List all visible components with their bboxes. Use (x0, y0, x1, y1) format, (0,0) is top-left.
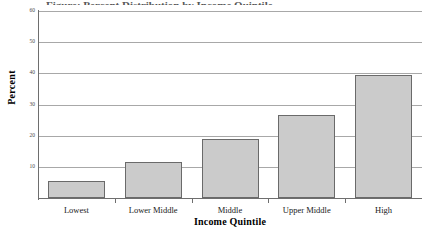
y-tick-label: 10 (17, 164, 35, 170)
y-tick-label: 50 (17, 39, 35, 45)
bar-series (38, 11, 422, 198)
y-tick-label: 60 (17, 8, 35, 14)
y-axis-label: Percent (6, 53, 17, 123)
x-tick-label: Middle (192, 205, 269, 215)
x-tick-label: High (345, 205, 422, 215)
x-tick-mark (192, 198, 193, 203)
x-tick-mark (345, 198, 346, 203)
bar (125, 162, 182, 198)
chart-title-clipped: Figure: Percent Distribution by Income Q… (0, 0, 422, 5)
y-tick-label: 40 (17, 70, 35, 76)
bar (278, 115, 335, 198)
y-tick-label: 20 (17, 133, 35, 139)
bar (202, 139, 259, 198)
bar (48, 181, 105, 198)
x-tick-mark (115, 198, 116, 203)
x-axis-label: Income Quintile (38, 216, 422, 227)
bar-chart: Figure: Percent Distribution by Income Q… (0, 0, 422, 231)
x-tick-label: Lower Middle (115, 205, 192, 215)
y-tick-label: 30 (17, 102, 35, 108)
x-axis-line (38, 198, 422, 199)
x-tick-label: Lowest (38, 205, 115, 215)
bar (355, 75, 412, 198)
x-tick-label: Upper Middle (268, 205, 345, 215)
x-tick-mark (268, 198, 269, 203)
